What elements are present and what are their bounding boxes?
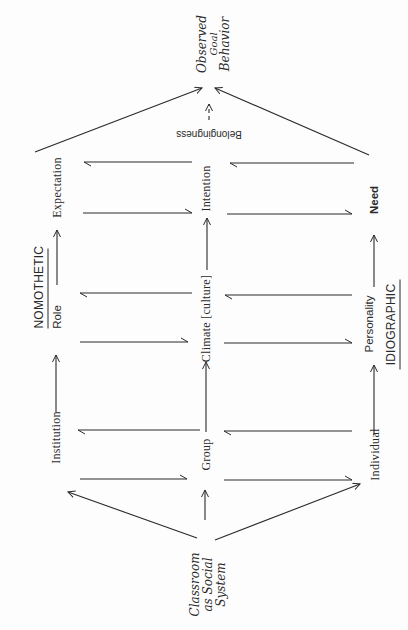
arrow-source-to-individual xyxy=(215,484,360,540)
node-institution: Institution xyxy=(49,408,64,468)
line-expectation-to-behavior xyxy=(35,88,202,152)
line-need-to-behavior xyxy=(215,88,369,155)
arrow-source-to-institution xyxy=(68,492,197,538)
node-personality: Personality xyxy=(363,289,375,359)
node-individual: Individual xyxy=(368,420,383,490)
node-expectation: Expectation xyxy=(50,153,65,223)
node-need: Need xyxy=(368,180,380,220)
diagram-canvas: NOMOTHETIC IDIOGRAPHIC Institution Role … xyxy=(0,0,408,630)
node-belongingness: Belongingness xyxy=(174,129,244,140)
nomothetic-heading: NOMOTHETIC xyxy=(32,249,49,329)
node-classroom-social-system: Classroom as Social System xyxy=(189,546,228,624)
node-role: Role xyxy=(51,297,63,337)
idiographic-heading: IDIOGRAPHIC xyxy=(384,280,401,370)
node-climate-culture: Climate [culture] xyxy=(199,274,214,364)
node-intention: Intention xyxy=(199,159,214,219)
node-observed-goal-behavior: Observed Goal Behavior xyxy=(196,6,232,82)
node-group: Group xyxy=(199,435,214,475)
